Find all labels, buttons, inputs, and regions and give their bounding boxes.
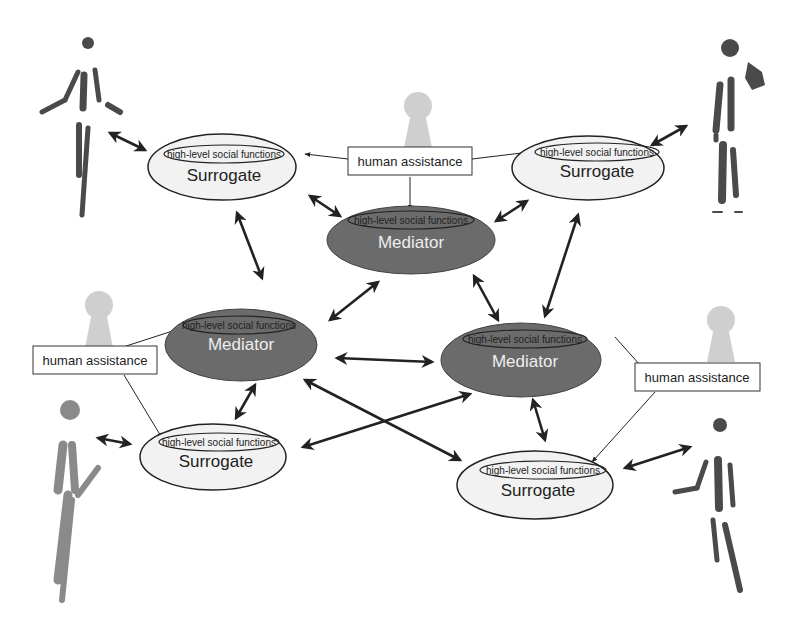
arrow-surrogate-tl-mediator-left	[237, 213, 262, 278]
human-figure-top-left	[42, 37, 120, 215]
arrow-figure-tr-surrogate-tr	[652, 126, 686, 145]
arrow-figure-br-surrogate-br	[625, 447, 690, 468]
human-assistance-box-top: human assistance	[348, 147, 472, 175]
human-assistance-box-left: human assistance	[33, 346, 157, 374]
surrogate-node-bottom-right: high-level social functions Surrogate	[457, 451, 613, 519]
mediator-node-left: high-level social functions Mediator	[165, 309, 317, 381]
inner-label: high-level social functions	[162, 437, 276, 448]
surrogate-node-bottom-left: high-level social functions Surrogate	[140, 424, 286, 490]
mediator-label: Mediator	[378, 233, 444, 252]
human-figure-bottom-left	[58, 400, 98, 600]
inner-label: high-level social functions	[540, 147, 654, 158]
mediator-label: Mediator	[492, 352, 558, 371]
inner-label: high-level social functions	[167, 149, 281, 160]
arrow-surrogate-tr-mediator-top	[496, 201, 527, 221]
human-figure-bottom-right	[675, 418, 740, 590]
inner-label: high-level social functions	[468, 334, 582, 345]
inner-label: high-level social functions	[486, 465, 600, 476]
surrogate-label: Surrogate	[501, 481, 576, 500]
surrogate-label: Surrogate	[187, 166, 262, 185]
network-diagram: high-level social functions Surrogate hi…	[0, 0, 797, 630]
arrow-mediator-right-surrogate-br	[533, 400, 545, 440]
human-assistance-label: human assistance	[43, 353, 148, 368]
pawn-icon-left	[85, 291, 113, 348]
inner-label: high-level social functions	[354, 215, 468, 226]
human-assistance-label: human assistance	[645, 370, 750, 385]
arrow-figure-bl-surrogate-bl	[98, 438, 130, 444]
arrow-figure-tl-surrogate-tl	[110, 133, 145, 150]
arrow-mediator-left-surrogate-bl	[236, 385, 255, 418]
inner-label: high-level social functions	[182, 320, 296, 331]
human-assistance-label: human assistance	[358, 154, 463, 169]
surrogate-node-top-left: high-level social functions Surrogate	[148, 134, 296, 200]
arrow-mediator-left-mediator-right	[337, 358, 432, 362]
mediator-label: Mediator	[208, 335, 274, 354]
surrogate-node-top-right: high-level social functions Surrogate	[512, 136, 664, 200]
arrow-mediator-top-mediator-left	[330, 282, 378, 320]
mediator-node-right: high-level social functions Mediator	[441, 323, 601, 397]
pawn-icon-top	[404, 92, 432, 148]
arrow-mediator-right-surrogate-bl	[303, 394, 470, 447]
surrogate-label: Surrogate	[560, 162, 635, 181]
arrow-surrogate-tl-mediator-top	[310, 196, 340, 216]
human-assistance-box-right: human assistance	[635, 363, 760, 391]
human-figure-top-right	[713, 39, 765, 212]
pawn-icon-right	[707, 306, 735, 362]
arrow-surrogate-tr-mediator-right	[545, 215, 578, 316]
arrow-mediator-top-mediator-right	[474, 276, 498, 320]
arrow-mediator-left-surrogate-br	[305, 380, 460, 460]
surrogate-label: Surrogate	[179, 452, 254, 471]
mediator-node-top: high-level social functions Mediator	[327, 206, 495, 274]
